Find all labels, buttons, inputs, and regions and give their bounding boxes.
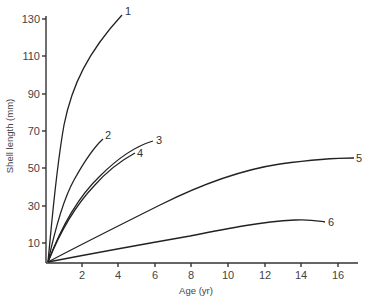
- y-tick-50: 50: [28, 162, 40, 174]
- curve-label-5: 5: [356, 152, 362, 164]
- curve-label-4: 4: [137, 147, 143, 159]
- curve-label-3: 3: [156, 134, 162, 146]
- curve-4: [48, 153, 135, 262]
- curves: [48, 15, 354, 262]
- x-tick-12: 12: [259, 269, 271, 281]
- y-tick-90: 90: [28, 88, 40, 100]
- x-tick-14: 14: [295, 269, 307, 281]
- y-tick-10: 10: [28, 237, 40, 249]
- y-tick-70: 70: [28, 125, 40, 137]
- curve-5: [48, 158, 354, 262]
- x-tick-4: 4: [115, 269, 121, 281]
- curve-labels: 1 2 3 4 5 6: [105, 5, 362, 228]
- curve-label-2: 2: [105, 129, 111, 141]
- y-tick-labels: 10 30 50 70 90 110 130: [22, 13, 40, 249]
- x-axis-title: Age (yr): [179, 285, 213, 296]
- growth-chart: 10 30 50 70 90 110 130 2 4 6 8 10 12 14 …: [0, 0, 368, 298]
- curve-label-6: 6: [328, 216, 334, 228]
- x-tick-6: 6: [152, 269, 158, 281]
- x-tick-labels: 2 4 6 8 10 12 14 16: [79, 269, 344, 281]
- y-tick-110: 110: [22, 50, 40, 62]
- y-axis-title: Shell length (mm): [4, 99, 15, 173]
- x-tick-2: 2: [79, 269, 85, 281]
- curve-3: [48, 141, 153, 262]
- curve-label-1: 1: [125, 5, 131, 17]
- x-tick-16: 16: [332, 269, 344, 281]
- x-tick-10: 10: [222, 269, 234, 281]
- y-tick-30: 30: [28, 200, 40, 212]
- y-tick-130: 130: [22, 13, 40, 25]
- x-tick-8: 8: [188, 269, 194, 281]
